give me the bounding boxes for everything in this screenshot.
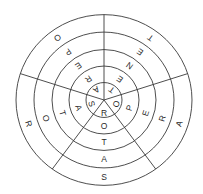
letter-tenet-5: T (145, 32, 155, 43)
letter-tenet-2: E (114, 73, 125, 85)
divider-line (104, 74, 188, 100)
letter-rotas-4: A (101, 154, 107, 164)
sator-wheel-diagram: TENETOPERAROTASSATORAREPO (0, 0, 203, 194)
letter-tenet-4: E (134, 46, 145, 58)
letter-sator-5: R (23, 119, 34, 128)
letter-sator-2: A (73, 104, 84, 113)
letter-arepo-1: A (91, 84, 102, 96)
letter-arepo-2: R (83, 73, 94, 85)
letter-arepo-4: P (63, 46, 74, 58)
letter-sator-3: T (57, 109, 68, 117)
letter-arepo-3: E (73, 60, 84, 72)
letter-opera-5: A (173, 119, 184, 128)
letter-rotas-5: S (101, 172, 107, 182)
letter-rotas-2: O (101, 121, 108, 131)
letter-opera-4: R (156, 114, 167, 123)
letter-opera-3: E (140, 108, 151, 117)
letter-rotas-1: R (101, 108, 107, 118)
letter-opera-2: P (124, 103, 135, 112)
letter-opera-1: O (111, 99, 123, 109)
letter-sator-4: O (40, 114, 52, 124)
letter-arepo-5: O (52, 32, 64, 44)
letter-rotas-3: T (101, 137, 106, 147)
letter-tenet-3: N (124, 60, 135, 72)
letter-sator-1: S (86, 100, 97, 109)
